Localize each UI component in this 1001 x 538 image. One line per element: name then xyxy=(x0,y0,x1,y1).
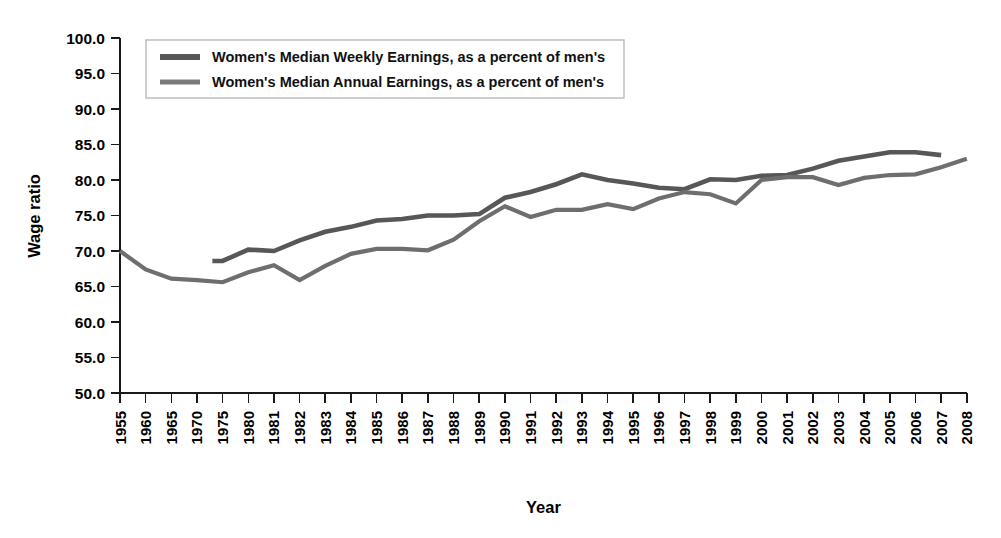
y-tick-label: 85.0 xyxy=(75,136,105,153)
chart-legend: Women's Median Weekly Earnings, as a per… xyxy=(146,40,624,98)
y-tick-label: 65.0 xyxy=(75,278,105,295)
x-tick-label: 1975 xyxy=(214,411,231,444)
y-tick-label: 90.0 xyxy=(75,101,105,118)
x-tick-label: 1996 xyxy=(650,411,667,444)
x-tick-label: 1955 xyxy=(112,411,129,444)
y-tick-label: 80.0 xyxy=(75,172,105,189)
x-tick-label: 2000 xyxy=(753,411,770,444)
y-tick-label: 95.0 xyxy=(75,65,105,82)
x-tick-label: 2006 xyxy=(907,411,924,444)
x-tick-label: 2005 xyxy=(881,411,898,444)
series-line-1 xyxy=(212,152,941,261)
wage-ratio-line-chart: 100.095.090.085.080.075.070.065.060.055.… xyxy=(0,0,1001,538)
x-tick-label: 2002 xyxy=(804,411,821,444)
x-tick-label: 1965 xyxy=(163,411,180,444)
x-tick-label: 1993 xyxy=(573,411,590,444)
x-tick-label: 1981 xyxy=(265,411,282,444)
x-tick-label: 1991 xyxy=(522,411,539,444)
x-tick-label: 1990 xyxy=(496,411,513,444)
x-tick-label: 2008 xyxy=(958,411,975,444)
x-tick-label: 2003 xyxy=(830,411,847,444)
y-axis-title: Wage ratio xyxy=(25,174,43,258)
data-series-group xyxy=(120,152,967,282)
x-tick-label: 1987 xyxy=(419,411,436,444)
x-tick-label: 1986 xyxy=(394,411,411,444)
x-axis: 1955196019651970197519801981198219831984… xyxy=(112,393,976,444)
x-tick-label: 1982 xyxy=(291,411,308,444)
series-line-2 xyxy=(120,159,967,283)
y-tick-label: 75.0 xyxy=(75,207,105,224)
x-tick-label: 1995 xyxy=(625,411,642,444)
x-tick-label: 1985 xyxy=(368,411,385,444)
legend-label-1: Women's Median Weekly Earnings, as a per… xyxy=(212,49,605,65)
legend-label-2: Women's Median Annual Earnings, as a per… xyxy=(212,74,604,90)
x-tick-label: 2004 xyxy=(856,410,873,444)
x-tick-label: 1960 xyxy=(137,411,154,444)
x-tick-label: 1999 xyxy=(727,411,744,444)
x-tick-label: 1998 xyxy=(702,411,719,444)
y-tick-label: 55.0 xyxy=(75,349,105,366)
x-tick-label: 1980 xyxy=(240,411,257,444)
x-tick-label: 1994 xyxy=(599,410,616,444)
x-tick-label: 1992 xyxy=(548,411,565,444)
x-tick-label: 2001 xyxy=(779,411,796,444)
x-tick-label: 1984 xyxy=(342,410,359,444)
y-tick-label: 50.0 xyxy=(75,385,105,402)
x-tick-label: 1988 xyxy=(445,411,462,444)
y-tick-label: 100.0 xyxy=(66,30,105,47)
y-tick-label: 60.0 xyxy=(75,314,105,331)
chart-canvas: 100.095.090.085.080.075.070.065.060.055.… xyxy=(0,0,1001,538)
y-tick-label: 70.0 xyxy=(75,243,105,260)
x-tick-label: 1989 xyxy=(471,411,488,444)
x-tick-label: 2007 xyxy=(933,411,950,444)
x-tick-label: 1983 xyxy=(317,411,334,444)
x-tick-label: 1970 xyxy=(188,411,205,444)
x-tick-label: 1997 xyxy=(676,411,693,444)
x-axis-title: Year xyxy=(526,498,561,516)
y-axis: 100.095.090.085.080.075.070.065.060.055.… xyxy=(66,30,120,402)
